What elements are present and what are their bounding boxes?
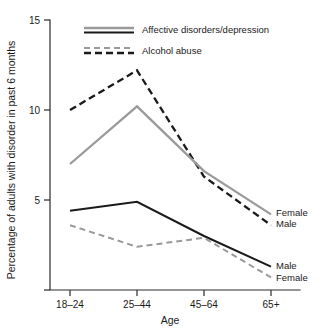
endpoint-label-alcohol-female: Female <box>276 272 308 283</box>
y-tick-label-5: 5 <box>34 195 40 206</box>
chart-figure: 5 10 15 18–24 25–44 45–64 65+ Age Percen… <box>0 0 327 331</box>
y-tick-label-15: 15 <box>29 15 41 26</box>
y-axis-title: Percentage of adults with disorder in pa… <box>5 41 17 280</box>
x-tick-label-25-44: 25–44 <box>123 299 151 310</box>
x-tick-label-45-64: 45–64 <box>190 299 218 310</box>
legend-label-affective: Affective disorders/depression <box>142 24 269 35</box>
legend-label-alcohol: Alcohol abuse <box>142 45 202 56</box>
y-tick-label-10: 10 <box>29 105 41 116</box>
endpoint-label-alcohol-male: Male <box>276 218 297 229</box>
endpoint-label-affective-female: Female <box>276 207 308 218</box>
x-tick-label-65-plus: 65+ <box>263 299 280 310</box>
x-axis-title: Age <box>161 314 180 326</box>
line-chart-svg: 5 10 15 18–24 25–44 45–64 65+ Age Percen… <box>0 0 327 331</box>
x-tick-label-18-24: 18–24 <box>56 299 84 310</box>
endpoint-label-affective-male: Male <box>276 260 297 271</box>
